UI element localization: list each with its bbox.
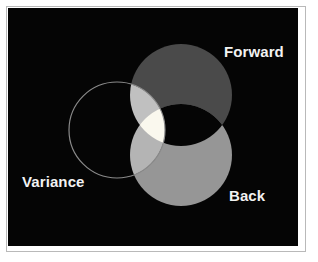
set-label-variance: Variance [22,174,85,189]
venn-canvas: Forward Back Variance [8,8,298,246]
set-label-forward: Forward [224,44,284,59]
set-label-back: Back [229,188,265,203]
venn-diagram-figure: Forward Back Variance [0,0,318,262]
